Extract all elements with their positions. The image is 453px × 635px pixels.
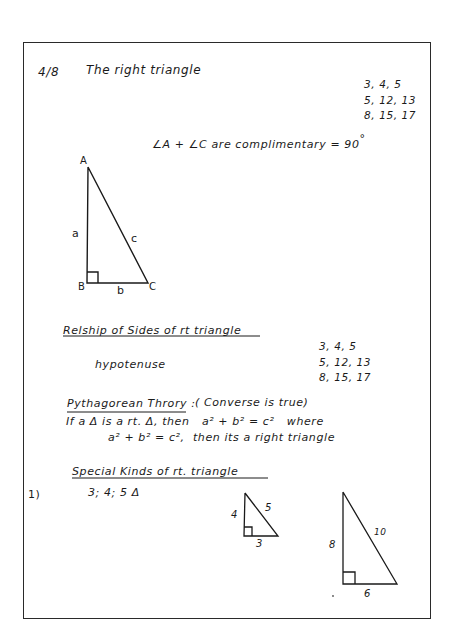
main-triangle	[87, 167, 148, 283]
side-label-a: a	[72, 228, 79, 239]
large-side-base: 6	[364, 589, 371, 599]
side-label-c: c	[131, 233, 138, 244]
side-label-b: b	[117, 285, 125, 296]
line1-suffix: where	[287, 415, 324, 428]
item-text: 3; 4; 5 Δ	[88, 487, 140, 498]
triple-item: 8, 15, 17	[319, 372, 371, 383]
large-side-hypotenuse: 10	[374, 528, 387, 537]
large-triangle	[343, 492, 397, 584]
small-side-hypotenuse: 5	[265, 503, 272, 513]
converse-aside: ( Converse is true)	[195, 397, 309, 408]
small-side-vertical: 4	[231, 510, 238, 520]
pythagorean-line-2: a² + b² = c², then its a right triangle	[108, 432, 335, 443]
triple-item: 3, 4, 5	[319, 341, 371, 352]
line2-equation: a² + b² = c²,	[108, 431, 185, 444]
hypotenuse-term: hypotenuse	[95, 359, 166, 370]
triples-list: 3, 4, 5 5, 12, 13 8, 15, 17	[319, 341, 371, 388]
item-number: 1)	[28, 489, 41, 500]
pythagorean-line-1: If a Δ is a rt. Δ, then a² + b² = c² whe…	[66, 416, 324, 427]
line2-suffix: then its a right triangle	[193, 431, 335, 444]
small-side-base: 3	[256, 539, 263, 549]
triple-item: 5, 12, 13	[319, 357, 371, 368]
vertex-label-c: C	[149, 282, 157, 292]
special-kinds-heading: Special Kinds of rt. triangle	[72, 466, 238, 477]
small-triangle	[244, 493, 278, 536]
triangle-diagrams	[0, 0, 453, 635]
pythagorean-heading: Pythagorean Throry :	[67, 398, 196, 409]
relationship-heading: Relship of Sides of rt triangle	[63, 325, 241, 336]
line1-prefix: If a Δ is a rt. Δ, then	[66, 415, 190, 428]
vertex-label-a: A	[80, 156, 87, 166]
line1-equation: a² + b² = c²	[202, 415, 275, 428]
vertex-label-b: B	[78, 282, 85, 292]
large-side-vertical: 8	[329, 540, 336, 550]
